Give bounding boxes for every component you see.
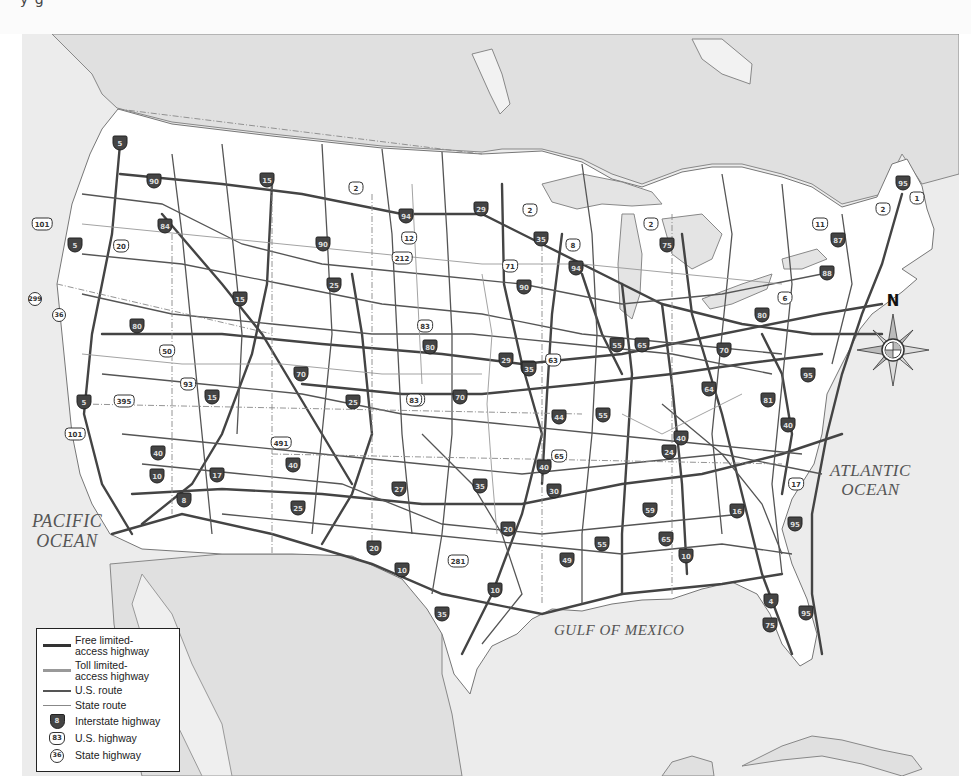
interstate-shield-icon: 20 — [367, 541, 382, 556]
atlantic-label-line2: OCEAN — [830, 481, 911, 500]
us-shield-icon: 1 — [910, 192, 925, 205]
interstate-shield-icon: 80 — [130, 319, 145, 334]
us-shield-icon: 491 — [271, 437, 292, 450]
interstate-shield-icon: 29 — [499, 353, 514, 368]
legend-item-interstate: 8 Interstate highway — [43, 713, 173, 730]
interstate-shield-icon: 75 — [660, 238, 675, 253]
legend-item-us-route: U.S. route — [43, 683, 173, 698]
legend-label: Interstate highway — [75, 716, 160, 727]
us-shield-icon: 71 — [502, 260, 518, 273]
interstate-shield-icon: 5 — [77, 395, 92, 410]
interstate-shield-icon: 10 — [150, 469, 165, 484]
interstate-shield-icon: 24 — [662, 445, 677, 460]
interstate-shield-icon: 10 — [488, 583, 503, 598]
state-shield-icon: 299 — [28, 292, 42, 306]
interstate-shield-icon: 40 — [537, 460, 552, 475]
interstate-shield-icon: 55 — [596, 408, 611, 423]
interstate-shield-icon: 16 — [730, 504, 745, 519]
interstate-shield-icon: 55 — [610, 338, 625, 353]
us-shield-icon: 6 — [778, 292, 793, 305]
us-shield-icon: 63 — [545, 354, 561, 367]
interstate-shield-icon: 70 — [717, 343, 732, 358]
interstate-shield-icon: 75 — [763, 618, 778, 633]
interstate-shield-icon: 95 — [799, 606, 814, 621]
interstate-shield-icon: 35 — [534, 232, 549, 247]
compass-north-label: N — [855, 292, 931, 310]
interstate-shield-icon: 95 — [896, 176, 911, 191]
interstate-shield-icon: 64 — [702, 382, 717, 397]
interstate-shield-icon: 10 — [395, 563, 410, 578]
interstate-shield-icon: 88 — [820, 266, 835, 281]
pacific-ocean-label: PACIFIC OCEAN — [32, 512, 102, 552]
interstate-shield-icon: 8 — [50, 714, 65, 729]
us-shield-icon: 2 — [876, 203, 891, 216]
interstate-shield-icon: 90 — [316, 237, 331, 252]
interstate-shield-icon: 94 — [569, 261, 584, 276]
pacific-label-line1: PACIFIC — [32, 512, 102, 532]
us-shield-icon: 395 — [114, 395, 135, 408]
legend-label: State route — [75, 700, 126, 711]
interstate-shield-icon: 35 — [522, 362, 537, 377]
interstate-shield-icon: 25 — [327, 278, 342, 293]
us-route-line-icon — [43, 690, 71, 692]
state-highway-circle-icon: 36 — [50, 749, 64, 763]
us-shield-icon: 101 — [65, 428, 86, 441]
legend-label: access highway — [75, 645, 149, 657]
interstate-shield-icon: 15 — [233, 292, 248, 307]
us-highway-shield-icon: 83 — [49, 732, 65, 745]
legend-label: U.S. highway — [75, 733, 137, 744]
us-shield-icon: 93 — [180, 378, 196, 391]
interstate-shield-icon: 70 — [453, 390, 468, 405]
us-shield-icon: 11 — [812, 218, 828, 231]
us-shield-icon: 65 — [551, 450, 567, 463]
us-shield-icon: 101 — [32, 218, 53, 231]
free-highway-line-icon — [43, 644, 71, 647]
legend-label: access highway — [75, 670, 149, 682]
interstate-shield-icon: 29 — [474, 202, 489, 217]
us-shield-icon: 2 — [644, 218, 659, 231]
interstate-shield-icon: 40 — [781, 418, 796, 433]
interstate-shield-icon: 25 — [346, 395, 361, 410]
interstate-shield-icon: 90 — [517, 280, 532, 295]
interstate-shield-icon: 35 — [435, 607, 450, 622]
map-legend: Free limited-access highway Toll limited… — [36, 628, 180, 772]
us-shield-icon: 281 — [448, 555, 469, 568]
state-shield-icon: 36 — [52, 308, 66, 322]
us-shield-icon: 83 — [417, 320, 433, 333]
compass-rose-icon — [855, 312, 931, 388]
interstate-shield-icon: 84 — [158, 219, 173, 234]
interstate-shield-icon: 44 — [552, 410, 567, 425]
interstate-shield-icon: 25 — [291, 501, 306, 516]
legend-item-state-highway: 36 State highway — [43, 747, 173, 764]
interstate-shield-icon: 40 — [286, 458, 301, 473]
interstate-shield-icon: 95 — [788, 517, 803, 532]
interstate-shield-icon: 30 — [547, 484, 562, 499]
us-shield-icon: 12 — [401, 232, 417, 245]
interstate-shield-icon: 5 — [68, 238, 83, 253]
interstate-shield-icon: 10 — [679, 549, 694, 564]
legend-item-us-highway: 83 U.S. highway — [43, 730, 173, 747]
interstate-shield-icon: 90 — [147, 174, 162, 189]
legend-item-free-highway: Free limited-access highway — [43, 633, 173, 658]
interstate-shield-icon: 15 — [205, 390, 220, 405]
interstate-shield-icon: 5 — [113, 136, 128, 151]
atlantic-ocean-label: ATLANTIC OCEAN — [830, 462, 911, 499]
interstate-shield-icon: 20 — [501, 522, 516, 537]
pacific-label-line2: OCEAN — [32, 532, 102, 552]
atlantic-label-line1: ATLANTIC — [830, 462, 911, 481]
interstate-shield-icon: 65 — [635, 338, 650, 353]
gulf-of-mexico-label: GULF OF MEXICO — [554, 622, 684, 639]
us-shield-icon: 2 — [523, 204, 538, 217]
interstate-shield-icon: 95 — [801, 368, 816, 383]
interstate-shield-icon: 49 — [560, 553, 575, 568]
compass-rose: N — [855, 292, 931, 388]
interstate-shield-icon: 15 — [260, 173, 275, 188]
legend-label: State highway — [75, 750, 141, 761]
us-shield-icon: 17 — [788, 478, 804, 491]
legend-item-state-route: State route — [43, 698, 173, 713]
interstate-shield-icon: 81 — [761, 393, 776, 408]
interstate-shield-icon: 70 — [294, 367, 309, 382]
interstate-shield-icon: 94 — [399, 209, 414, 224]
state-route-line-icon — [43, 705, 71, 706]
cropped-header-strip: y g — [0, 0, 971, 34]
